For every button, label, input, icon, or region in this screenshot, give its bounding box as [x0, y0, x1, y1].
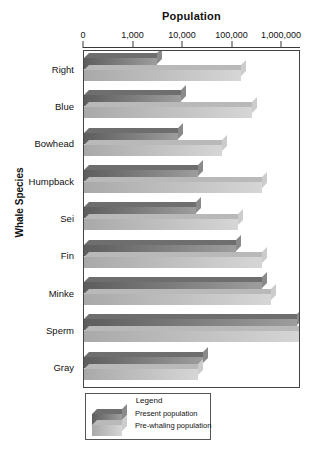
category-label-fin: Fin [61, 250, 74, 261]
bar-bowhead-prewhaling [84, 145, 222, 156]
chart-title: Population [83, 10, 300, 22]
x-tick-mark-2 [182, 41, 183, 48]
x-tick-mark-1 [132, 41, 133, 48]
x-tick-label-2: 10,000 [168, 30, 196, 40]
bar-sei-prewhaling [84, 219, 238, 230]
x-tick-label-4: 1,000,000 [261, 30, 301, 40]
legend-label-prewhaling: Pre-whaling population [135, 421, 211, 430]
x-axis: 01,00010,000100,0001,000,000 [0, 30, 313, 52]
chart-container: Population 01,00010,000100,0001,000,000 … [0, 0, 313, 459]
x-tick-mark-4 [281, 41, 282, 48]
bar-minke-prewhaling [84, 294, 271, 305]
legend: Legend Present population Pre-whaling po… [85, 393, 211, 440]
x-axis-line [83, 47, 300, 48]
bar-right-prewhaling [84, 70, 241, 81]
x-tick-label-0: 0 [80, 30, 85, 40]
category-label-sei: Sei [60, 213, 74, 224]
y-axis-category-labels: RightBlueBowheadHumpbackSeiFinMinkeSperm… [0, 50, 80, 388]
bars-layer [84, 51, 299, 387]
bar-blue-prewhaling [84, 107, 252, 118]
legend-swatch-prewhaling [92, 425, 122, 436]
bar-humpback-prewhaling [84, 182, 262, 193]
category-label-right: Right [52, 63, 74, 74]
category-label-minke: Minke [49, 287, 74, 298]
category-label-sperm: Sperm [46, 325, 74, 336]
legend-title: Legend [86, 396, 212, 405]
bar-gray-prewhaling [84, 369, 198, 380]
legend-label-present: Present population [135, 409, 198, 418]
category-label-blue: Blue [55, 101, 74, 112]
x-tick-label-3: 100,000 [215, 30, 248, 40]
bar-sperm-prewhaling [84, 331, 299, 342]
x-tick-mark-0 [83, 41, 84, 48]
legend-swatches [92, 409, 128, 435]
x-tick-mark-3 [231, 41, 232, 48]
bar-fin-prewhaling [84, 257, 262, 268]
category-label-humpback: Humpback [29, 175, 74, 186]
category-label-gray: Gray [53, 362, 74, 373]
category-label-bowhead: Bowhead [34, 138, 74, 149]
x-tick-label-1: 1,000 [121, 30, 144, 40]
